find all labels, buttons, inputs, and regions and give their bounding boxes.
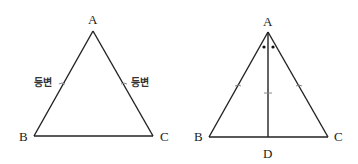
side-label-ac: 등변 [131,76,149,88]
edge-ab-right [209,32,268,137]
angle-mark-dot-right [271,45,274,48]
vertex-label-b-right: B [194,129,203,144]
tick-mark-ab-left [59,83,65,84]
vertex-label-c-left: C [160,129,169,144]
edge-ac-right [268,32,328,137]
vertex-label-a-left: A [88,12,98,27]
angle-mark-dot-left [262,45,265,48]
vertex-label-d-right: D [263,146,272,161]
side-label-ab: 등변 [34,76,52,88]
diagram-canvas: A B C 등변 등변 A B C D [0,0,358,164]
vertex-label-a-right: A [263,14,273,29]
vertex-label-c-right: C [334,129,343,144]
right-triangle: A B C D [194,14,343,161]
isosceles-triangle-figure: A B C 등변 등변 A B C D [0,0,358,164]
left-triangle: A B C 등변 등변 [19,12,169,144]
vertex-label-b-left: B [19,129,28,144]
